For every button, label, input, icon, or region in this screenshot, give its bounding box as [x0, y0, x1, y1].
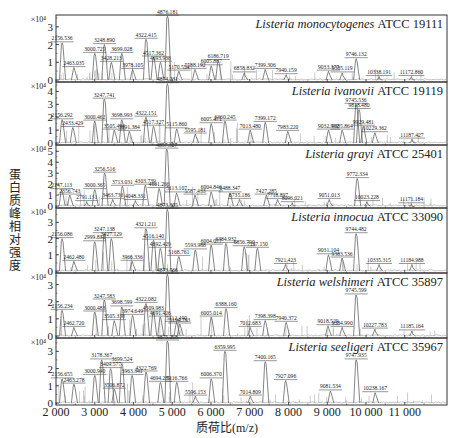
- y-multiplier-label: ×10⁴: [31, 273, 47, 282]
- spectrum-peak: [70, 128, 76, 144]
- peak-label: 6359.995: [214, 344, 235, 350]
- peak-label: 3178.367: [91, 352, 112, 358]
- peak-label: 9384.990: [332, 320, 353, 326]
- peak-label: 4322.415: [136, 32, 157, 38]
- spectrum-peak: [92, 312, 98, 336]
- y-tick-label: 1: [48, 56, 54, 68]
- spectrum-peak: [326, 71, 332, 80]
- peak-label: 5168.761: [168, 249, 189, 255]
- peak-label: 11172.860: [400, 69, 424, 75]
- peak-label: 6488.347: [219, 185, 240, 191]
- peak-label: 2156.292: [52, 112, 73, 118]
- spectrum-peak: [209, 66, 215, 80]
- peak-label: 4048.331: [125, 193, 146, 199]
- peak-label: 3409.577: [100, 361, 121, 367]
- peak-label: 2156.536: [52, 35, 73, 41]
- peak-label: 3698.993: [111, 112, 132, 118]
- peak-label: 10238.167: [363, 385, 387, 391]
- spectrum-peak: [354, 59, 360, 80]
- peak-label: 6858.832: [234, 65, 255, 71]
- peak-label: 4321.211: [136, 221, 157, 227]
- peak-label: 5194.793: [169, 317, 190, 323]
- y-tick-label: 0: [48, 330, 54, 342]
- spectrum-panel: 0123×10⁴Listeria innocua ATCC 330902156.…: [31, 202, 447, 277]
- spectrum-peak: [165, 84, 171, 143]
- peak-label: 4875.218: [157, 334, 178, 340]
- spectrum-peak: [127, 131, 133, 143]
- peak-label: 2791.131: [76, 194, 97, 200]
- x-tick-label: 3 000: [81, 405, 108, 419]
- spectrum-peak: [340, 73, 346, 80]
- peak-label: 3698.599: [111, 299, 132, 305]
- x-tick-label: 10 000: [350, 405, 383, 419]
- peak-label: 6005.014: [201, 310, 222, 316]
- peak-label: 9385.119: [332, 65, 353, 71]
- peak-label: 7013.480: [240, 123, 261, 129]
- peak-label: 3428.213: [101, 55, 122, 61]
- y-tick-label: 3: [48, 167, 54, 179]
- peak-label: 9744.482: [346, 226, 367, 232]
- spectrum-peak: [209, 192, 215, 206]
- y-tick-label: 3: [48, 216, 54, 228]
- spectrum-peak: [222, 121, 228, 143]
- spectrum-peak: [255, 248, 261, 271]
- peak-label: 9746.132: [346, 51, 367, 57]
- spectrum-peak: [151, 126, 157, 143]
- spectrum-peak: [130, 315, 136, 336]
- peak-label: 3699.028: [111, 46, 132, 52]
- spectrum-peak: [263, 362, 269, 403]
- spectrum-peak: [354, 234, 360, 271]
- peak-label: 3000.365: [84, 182, 105, 188]
- peak-label: 7197.150: [247, 241, 268, 247]
- peak-label: 9385.864: [332, 123, 353, 129]
- y-tick-label: 3: [48, 345, 54, 357]
- peak-label: 2462.720: [63, 320, 84, 326]
- spectrum-peak: [224, 309, 230, 336]
- y-tick-label: 3: [48, 98, 54, 110]
- peak-label: 11171.184: [400, 196, 424, 202]
- spectrum-peak: [174, 382, 180, 403]
- peak-label: 3000.483: [84, 305, 105, 311]
- peak-label: 4322.769: [136, 365, 157, 371]
- peak-label: 11187.427: [400, 132, 424, 138]
- peak-label: 4693.938: [150, 55, 171, 61]
- spectrum-peak: [71, 384, 77, 403]
- peak-label: 2356.743: [59, 188, 80, 194]
- peak-label: 10227.783: [363, 322, 387, 328]
- spectrum-peak: [158, 382, 164, 403]
- spectrum-peak: [275, 199, 281, 206]
- spectrum-peak: [355, 179, 361, 206]
- y-tick-label: 5: [48, 145, 54, 157]
- peak-label: 10338.191: [367, 69, 391, 75]
- spectrum-peak: [263, 321, 269, 336]
- spectrum-peak: [222, 351, 228, 403]
- peak-label: 6006.370: [201, 371, 222, 377]
- x-axis-label-text: 质荷比(m/z): [196, 421, 258, 435]
- y-tick-label: 3: [48, 279, 54, 291]
- x-tick-label: 5 000: [159, 405, 186, 419]
- mass-spectra-figure: 0123×10⁴Listeria monocytogenes ATCC 1911…: [0, 0, 454, 438]
- spectrum-panel: 012345×10⁴Listeria grayi ATCC 254012147.…: [31, 142, 447, 212]
- y-multiplier-label: ×10⁴: [31, 145, 47, 154]
- peak-label: 3427.129: [101, 231, 122, 237]
- peak-label: 4517.327: [143, 119, 164, 125]
- spectrum-peak: [143, 372, 149, 403]
- peak-label: 3248.890: [94, 37, 115, 43]
- peak-label: 3978.105: [122, 62, 143, 68]
- y-multiplier-label: ×10⁴: [31, 15, 47, 24]
- y-tick-label: 3: [48, 21, 54, 33]
- spectrum-panel: 0123×10⁴Listeria seeligeri ATCC 35967215…: [31, 334, 447, 410]
- peak-label: 4876.181: [157, 9, 178, 15]
- peak-label: 4322.082: [136, 296, 157, 302]
- peak-label: 6735.186: [229, 192, 250, 198]
- spectrum-peak: [92, 121, 98, 143]
- spectrum-peak: [285, 131, 291, 143]
- spectrum-peak: [71, 68, 77, 80]
- spectrum-peak: [340, 327, 346, 336]
- y-tick-label: 4: [48, 156, 54, 168]
- peak-label: 2156.086: [52, 231, 73, 237]
- spectrum-peak: [373, 393, 379, 403]
- peak-label: 6186.719: [208, 53, 229, 59]
- spectrum-panel: 0123×10⁴Listeria monocytogenes ATCC 1911…: [31, 9, 447, 86]
- peak-label: 3463.736: [102, 192, 123, 198]
